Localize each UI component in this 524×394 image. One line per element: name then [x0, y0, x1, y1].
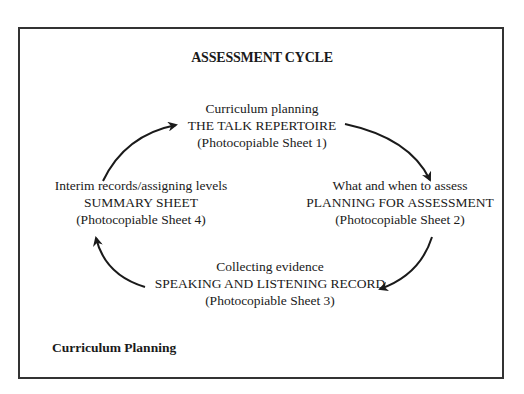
node-caption: Curriculum planning [162, 100, 362, 117]
node-planning-for-assessment: What and when to assess PLANNING FOR ASS… [282, 177, 518, 228]
footer-label: Curriculum Planning [52, 340, 176, 356]
node-sheet: (Photocopiable Sheet 3) [120, 292, 420, 309]
node-sheet: (Photocopiable Sheet 2) [282, 211, 518, 228]
node-speaking-listening-record: Collecting evidence SPEAKING AND LISTENI… [120, 258, 420, 309]
node-name: SUMMARY SHEET [36, 194, 246, 211]
node-talk-repertoire: Curriculum planning THE TALK REPERTOIRE … [162, 100, 362, 151]
node-name: SPEAKING AND LISTENING RECORD [120, 275, 420, 292]
node-summary-sheet: Interim records/assigning levels SUMMARY… [36, 177, 246, 228]
node-caption: Collecting evidence [120, 258, 420, 275]
node-caption: What and when to assess [282, 177, 518, 194]
node-sheet: (Photocopiable Sheet 4) [36, 211, 246, 228]
node-name: THE TALK REPERTOIRE [162, 117, 362, 134]
node-caption: Interim records/assigning levels [36, 177, 246, 194]
node-sheet: (Photocopiable Sheet 1) [162, 134, 362, 151]
node-name: PLANNING FOR ASSESSMENT [282, 194, 518, 211]
